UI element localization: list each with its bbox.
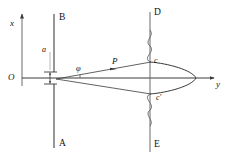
diffraction-diagram-svg <box>0 0 231 165</box>
diffraction-figure: x y O B A a D E φ P c c′ <box>0 0 231 165</box>
origin-label: O <box>8 73 15 82</box>
y-axis-label: y <box>216 80 220 89</box>
upper-fringe-label: c <box>154 57 158 65</box>
barrier-plate-upper-label: B <box>59 13 65 23</box>
slit-width-label: a <box>42 46 46 54</box>
ray-point-label: P <box>112 57 118 66</box>
ray-lower <box>56 79 151 94</box>
x-axis-label: x <box>10 19 14 28</box>
phi-angle-label: φ <box>76 64 81 73</box>
barrier-plate-lower-label: A <box>59 139 66 149</box>
screen-bottom-label: E <box>154 140 160 150</box>
lower-fringe-label: c′ <box>156 94 161 102</box>
screen-top-label: D <box>154 8 161 18</box>
